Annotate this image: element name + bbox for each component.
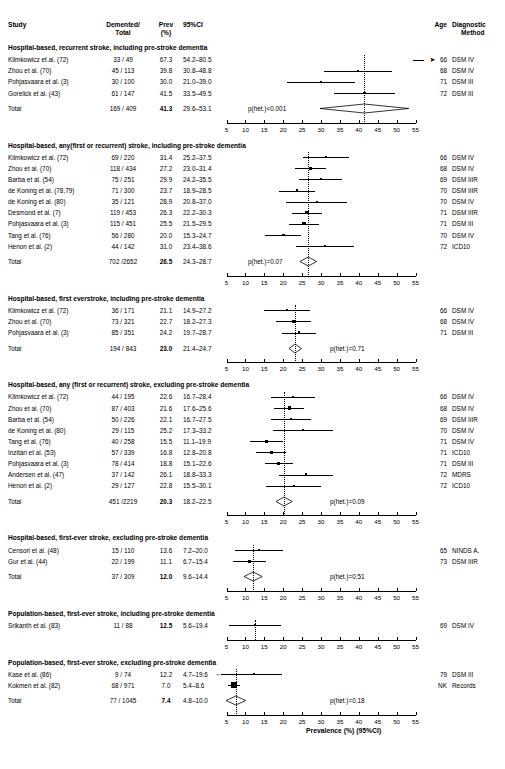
x-axis-tick-label: 5 xyxy=(220,718,234,725)
row-confidence-interval: 23.0–31.4 xyxy=(183,165,239,173)
row-demented-total: 35 / 121 xyxy=(97,198,149,206)
row-confidence-interval: 22.2–30.3 xyxy=(183,209,239,217)
row-prevalence: 18.8 xyxy=(152,460,180,468)
row-diagnostic-method: DSM IV xyxy=(452,393,474,401)
off-scale-left-arrow: ← xyxy=(216,670,223,677)
x-axis-tick-label: 5 xyxy=(220,365,234,372)
x-axis-tick xyxy=(359,588,360,591)
row-demented-total: 118 / 434 xyxy=(97,165,149,173)
x-axis-tick xyxy=(283,359,284,362)
x-axis-tick-label: 25 xyxy=(295,126,309,133)
summary-diamond xyxy=(298,256,319,267)
summary-diamond xyxy=(242,571,264,582)
reference-line xyxy=(253,545,254,590)
x-axis-tick xyxy=(264,637,265,640)
total-demented-total: 37 / 309 xyxy=(97,573,149,581)
x-axis-tick xyxy=(340,273,341,276)
x-axis-tick xyxy=(340,712,341,715)
x-axis-tick xyxy=(264,273,265,276)
row-age: 68 xyxy=(433,318,447,326)
row-age: 71 xyxy=(433,460,447,468)
x-axis-tick xyxy=(227,712,228,715)
row-demented-total: 57 / 339 xyxy=(97,449,149,457)
row-prevalence: 16.8 xyxy=(152,449,180,457)
row-prevalence: 25.5 xyxy=(152,220,180,228)
row-age: NK xyxy=(433,682,447,690)
x-axis-tick xyxy=(359,712,360,715)
row-study-label: Pohjasvaara et al. (3) xyxy=(8,220,69,228)
row-age: 79 xyxy=(433,671,447,679)
x-axis-tick xyxy=(378,273,379,276)
row-age: 72 xyxy=(433,482,447,490)
x-axis-tick-label: 5 xyxy=(220,279,234,286)
total-demented-total: 451 /2219 xyxy=(97,498,149,506)
row-diagnostic-method: DSM IV xyxy=(452,198,474,206)
x-axis-tick xyxy=(397,712,398,715)
total-prevalence: 41.3 xyxy=(152,105,180,113)
column-header-ci: 95%CI xyxy=(183,21,239,29)
row-prevalence: 21.1 xyxy=(152,307,180,315)
row-demented-total: 119 / 453 xyxy=(97,209,149,217)
row-confidence-interval: 21.5–29.5 xyxy=(183,220,239,228)
x-axis-tick-label: 45 xyxy=(371,643,385,650)
x-axis-tick xyxy=(283,637,284,640)
x-axis-tick xyxy=(321,512,322,515)
x-axis-tick-label: 30 xyxy=(314,643,328,650)
x-axis-tick xyxy=(283,273,284,276)
row-diagnostic-method: DSM IV xyxy=(452,318,474,326)
x-axis-tick-label: 55 xyxy=(409,518,423,525)
row-confidence-interval: 14.9–27.2 xyxy=(183,307,239,315)
point-estimate-marker xyxy=(290,418,292,420)
x-axis-tick xyxy=(227,637,228,640)
total-label: Total xyxy=(8,105,22,113)
row-study-label: Gur et al. (44) xyxy=(8,558,47,566)
x-axis-tick xyxy=(416,588,417,591)
row-prevalence: 26.3 xyxy=(152,209,180,217)
row-demented-total: 44 / 142 xyxy=(97,243,149,251)
x-axis-tick xyxy=(245,712,246,715)
row-prevalence: 28.9 xyxy=(152,198,180,206)
row-study-label: Zhou et al. (70) xyxy=(8,67,51,75)
row-age: 71 xyxy=(433,209,447,217)
row-study-label: Klimkowicz et al. (72) xyxy=(8,154,68,162)
row-study-label: Inzitari et al. (53) xyxy=(8,449,56,457)
x-axis-title: Prevalence (%) (95%CI) xyxy=(306,727,381,734)
x-axis-tick xyxy=(245,359,246,362)
row-age: 66 xyxy=(433,393,447,401)
row-age: 72 xyxy=(433,90,447,98)
row-prevalence: 22.1 xyxy=(152,416,180,424)
x-axis-tick-label: 30 xyxy=(314,365,328,372)
x-axis-tick-label: 50 xyxy=(390,643,404,650)
row-confidence-interval: 17.6–25.6 xyxy=(183,405,239,413)
section-heading: Hospital-based, first everstroke, includ… xyxy=(8,295,204,303)
x-axis-tick-label: 40 xyxy=(352,643,366,650)
row-study-label: Klimkowicz et al. (72) xyxy=(8,56,68,64)
x-axis-tick xyxy=(359,512,360,515)
point-estimate-marker xyxy=(305,473,307,475)
row-study-label: Henon et al. (2) xyxy=(8,243,52,251)
point-estimate-marker xyxy=(357,70,359,72)
row-diagnostic-method: DSM III xyxy=(452,90,473,98)
row-demented-total: 78 / 414 xyxy=(97,460,149,468)
heterogeneity-p-value: p(het.)=0.07 xyxy=(248,258,283,266)
row-demented-total: 22 / 199 xyxy=(97,558,149,566)
section-heading: Hospital-based, any(first or recurrent) … xyxy=(8,142,246,150)
section-heading: Population-based, first-ever stroke, inc… xyxy=(8,610,215,618)
point-estimate-marker xyxy=(258,549,260,551)
x-axis-tick xyxy=(359,637,360,640)
x-axis-tick-label: 25 xyxy=(295,279,309,286)
row-prevalence: 23.7 xyxy=(152,187,180,195)
point-estimate-marker xyxy=(288,406,291,409)
heterogeneity-p-value: p(het.)=0.51 xyxy=(330,573,365,581)
x-axis-tick-label: 10 xyxy=(238,279,252,286)
x-axis-tick xyxy=(321,120,322,123)
x-axis-tick xyxy=(264,120,265,123)
x-axis-tick-label: 50 xyxy=(390,594,404,601)
x-axis-tick-label: 15 xyxy=(257,279,271,286)
row-confidence-interval: 30.8–48.8 xyxy=(183,67,239,75)
row-confidence-interval: 23.4–38.6 xyxy=(183,243,239,251)
x-axis-tick xyxy=(321,588,322,591)
row-prevalence: 20.0 xyxy=(152,232,180,240)
row-prevalence: 7.0 xyxy=(152,682,180,690)
row-demented-total: 68 / 971 xyxy=(97,682,149,690)
